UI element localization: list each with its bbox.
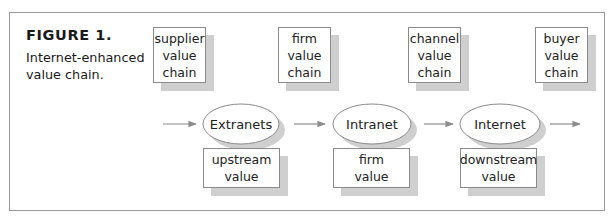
extranets-node: Extranets bbox=[203, 104, 285, 150]
upstream-value-box: upstream value bbox=[203, 148, 280, 188]
firm-value-box: firm value bbox=[333, 148, 410, 188]
node-label: Extranets bbox=[210, 117, 273, 132]
box-text: firm bbox=[359, 151, 384, 168]
box-text: value bbox=[354, 168, 388, 185]
intranet-node: Intranet bbox=[333, 104, 417, 150]
box-text: value bbox=[224, 168, 258, 185]
downstream-value-box: downstream value bbox=[460, 148, 537, 188]
box-text: upstream bbox=[212, 151, 272, 168]
node-label: Intranet bbox=[346, 117, 398, 132]
box-text: downstream bbox=[460, 151, 538, 168]
internet-node: Internet bbox=[460, 104, 546, 150]
node-label: Internet bbox=[474, 117, 526, 132]
box-text: value bbox=[481, 168, 515, 185]
